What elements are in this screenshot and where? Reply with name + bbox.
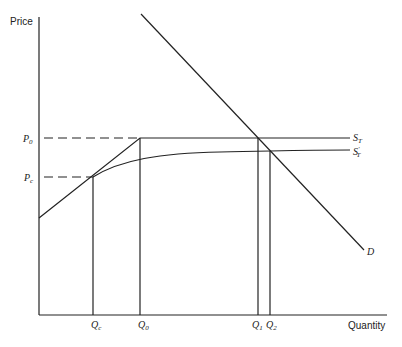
pc-label: Pc <box>23 172 34 185</box>
qc-label: Qc <box>91 319 102 332</box>
q1-label: Q1 <box>252 319 263 332</box>
y-axis-label: Price <box>10 16 33 27</box>
q0-label: Q0 <box>138 319 149 332</box>
p0-label: P0 <box>22 133 33 146</box>
st-label: ST <box>353 132 363 145</box>
st-prime-label: S′T <box>353 145 362 159</box>
x-axis-label: Quantity <box>348 320 385 331</box>
supply-demand-diagram: Price Quantity P0 Pc Qc Q0 Q1 Q2 ST S′T … <box>0 0 402 347</box>
q2-label: Q2 <box>266 319 277 332</box>
d-label: D <box>366 246 375 257</box>
supply-curve-st-prime <box>93 150 350 177</box>
demand-curve <box>141 14 364 250</box>
